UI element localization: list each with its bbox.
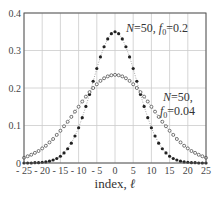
data-point-filled	[146, 116, 149, 119]
data-point-open	[186, 147, 189, 150]
data-point-open	[33, 151, 36, 154]
data-point-filled	[164, 151, 167, 154]
data-point-filled	[55, 157, 58, 160]
data-point-open	[37, 150, 40, 153]
x-axis-label: index, ℓ	[95, 176, 136, 191]
data-point-open	[44, 144, 47, 147]
data-point-filled	[99, 55, 102, 58]
data-point-open	[201, 155, 204, 158]
chart: 00.10.20.30.4 - 25- 20- 15- 10- 50510152…	[0, 0, 217, 200]
data-point-open	[161, 120, 164, 123]
data-point-open	[179, 141, 182, 144]
x-tick-label: - 15	[52, 165, 68, 176]
data-point-open	[168, 129, 171, 132]
data-point-filled	[128, 55, 131, 58]
data-point-open	[106, 75, 109, 78]
data-point-open	[124, 77, 127, 80]
annotation-f004-line2: f0=0.04	[160, 104, 195, 120]
x-tick-label: - 5	[91, 165, 102, 176]
data-point-filled	[77, 126, 80, 129]
y-tick-label: 0.3	[9, 45, 22, 56]
data-point-open	[139, 91, 142, 94]
x-tick-label: 10	[146, 165, 156, 176]
data-point-filled	[143, 105, 146, 108]
data-point-filled	[157, 142, 160, 145]
data-point-open	[52, 138, 55, 141]
x-tick-label: 20	[183, 165, 193, 176]
data-point-open	[135, 87, 138, 90]
x-tick-label: - 25	[16, 165, 32, 176]
data-point-open	[121, 75, 124, 78]
data-point-open	[73, 110, 76, 113]
data-point-filled	[121, 37, 124, 40]
x-tick-label: 25	[201, 165, 211, 176]
data-point-open	[164, 125, 167, 128]
data-point-open	[92, 87, 95, 90]
data-point-filled	[59, 155, 62, 158]
y-axis-ticks: 00.10.20.30.4	[9, 8, 22, 169]
data-point-filled	[161, 147, 164, 150]
data-point-filled	[168, 155, 171, 158]
data-point-filled	[153, 134, 156, 137]
data-point-open	[70, 115, 73, 118]
annotation-f02: N=50, f0=0.2	[125, 21, 188, 37]
data-point-filled	[66, 147, 69, 150]
data-point-filled	[95, 67, 98, 70]
data-point-open	[48, 141, 51, 144]
data-point-open	[194, 151, 197, 154]
data-point-open	[63, 125, 66, 128]
data-point-open	[146, 100, 149, 103]
data-point-filled	[132, 67, 135, 70]
data-point-open	[99, 79, 102, 82]
data-point-filled	[175, 158, 178, 161]
data-point-open	[183, 144, 186, 147]
data-point-open	[143, 95, 146, 98]
data-point-filled	[73, 134, 76, 137]
data-point-open	[66, 120, 69, 123]
annotation-f004-line1: N=50,	[162, 90, 193, 104]
data-point-open	[81, 100, 84, 103]
data-point-filled	[179, 160, 182, 163]
data-point-filled	[92, 80, 95, 83]
data-point-filled	[62, 151, 65, 154]
x-axis-ticks: - 25- 20- 15- 10- 50510152025	[16, 165, 211, 176]
x-tick-label: 15	[165, 165, 175, 176]
data-point-open	[197, 153, 200, 156]
data-point-open	[30, 153, 33, 156]
y-tick-label: 0.2	[9, 83, 22, 94]
data-point-filled	[81, 116, 84, 119]
data-point-filled	[70, 142, 73, 145]
data-point-filled	[150, 126, 153, 129]
data-point-open	[26, 155, 29, 158]
data-point-open	[84, 95, 87, 98]
x-tick-label: - 20	[34, 165, 50, 176]
data-point-filled	[113, 30, 116, 33]
data-point-open	[88, 91, 91, 94]
data-point-open	[154, 110, 157, 113]
data-point-open	[132, 83, 135, 86]
data-point-filled	[110, 32, 113, 35]
data-point-open	[114, 73, 117, 76]
x-tick-label: 0	[113, 165, 118, 176]
data-point-filled	[172, 157, 175, 160]
y-tick-label: 0.1	[9, 120, 22, 131]
x-tick-label: 5	[131, 165, 136, 176]
data-point-open	[175, 138, 178, 141]
data-point-open	[110, 74, 113, 77]
data-point-open	[172, 133, 175, 136]
data-point-open	[190, 150, 193, 153]
data-point-filled	[84, 105, 87, 108]
data-point-open	[103, 77, 106, 80]
data-point-open	[55, 133, 58, 136]
data-point-filled	[102, 45, 105, 48]
data-point-open	[95, 83, 98, 86]
data-point-open	[41, 147, 44, 150]
data-point-filled	[48, 160, 51, 163]
data-point-filled	[106, 37, 109, 40]
data-point-open	[128, 79, 131, 82]
x-tick-label: - 10	[71, 165, 87, 176]
data-point-filled	[52, 158, 55, 161]
data-point-filled	[135, 80, 138, 83]
data-point-open	[77, 105, 80, 108]
data-point-open	[150, 105, 153, 108]
